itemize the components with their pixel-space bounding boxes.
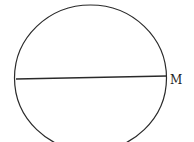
chord-line [16,76,167,79]
ellipse-outline [15,5,167,142]
point-label-m: M [170,73,182,87]
ellipse-diagram: M [0,0,194,142]
